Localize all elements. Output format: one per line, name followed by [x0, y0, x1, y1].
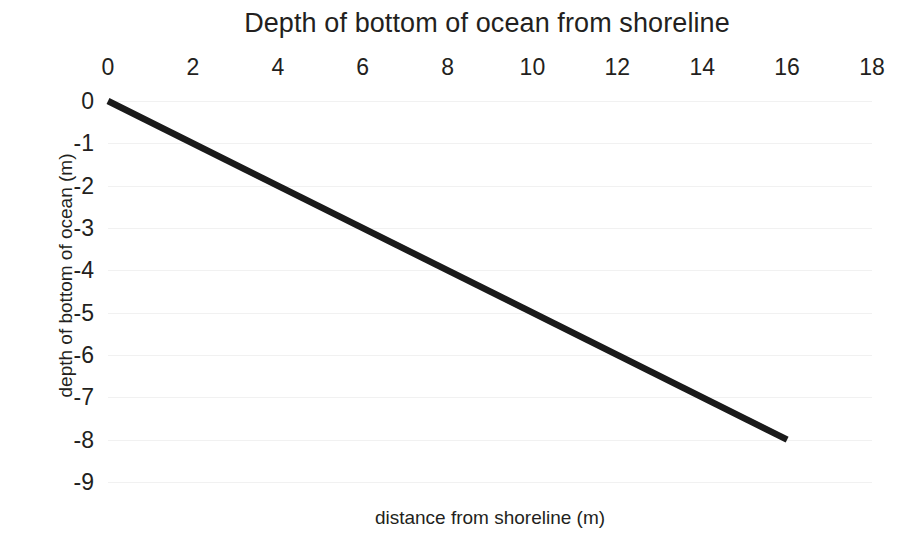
- x-tick-label: 10: [520, 53, 546, 81]
- x-tick-label: 14: [689, 53, 715, 81]
- x-tick-label: 8: [441, 53, 454, 81]
- x-tick-label: 6: [356, 53, 369, 81]
- y-axis-title: depth of bottom of ocean (m): [44, 0, 88, 551]
- x-tick-label: 16: [774, 53, 800, 81]
- x-tick-label: 18: [859, 53, 885, 81]
- chart-figure: Depth of bottom of ocean from shoreline …: [0, 0, 914, 551]
- x-axis-tick-labels: 024681012141618: [0, 53, 914, 81]
- x-tick-label: 4: [271, 53, 284, 81]
- plot-area: [0, 0, 914, 551]
- plot-canvas: [0, 0, 914, 551]
- x-axis-title: distance from shoreline (m): [108, 505, 872, 531]
- x-tick-label: 2: [186, 53, 199, 81]
- x-tick-label: 12: [605, 53, 631, 81]
